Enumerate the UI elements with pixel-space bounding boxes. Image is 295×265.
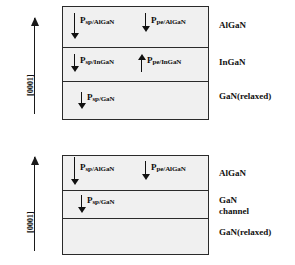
arrow-down-icon (141, 13, 150, 32)
layer-gan-relaxed: Psp/GaN (63, 81, 208, 119)
axis-arrowhead-up-icon (31, 156, 39, 165)
polarization-pe-ingan: Ppe/InGaN (137, 54, 181, 72)
axis-shaft (34, 157, 35, 251)
arrow-down-icon (77, 92, 86, 109)
polarization-label: Ppe/AlGaN (151, 163, 186, 173)
polarization-label: Psp/AlGaN (80, 16, 114, 26)
material-label-ingan: InGaN (219, 57, 246, 68)
layer-stack-bottom: Psp/AlGaN Ppe/AlGaN Psp/GaN (62, 155, 209, 255)
polarization-pe-algan: Ppe/AlGaN (141, 13, 186, 32)
material-label-algan: AlGaN (219, 20, 246, 31)
layer-ingan: Psp/InGaN Ppe/InGaN (63, 47, 208, 81)
material-label-line1: GaN (219, 195, 249, 206)
material-label-gan-relaxed: GaN(relaxed) (219, 227, 271, 238)
polarization-subscript: pe/AlGaN (157, 165, 186, 173)
polarization-label: Ppe/InGaN (147, 56, 181, 66)
polarization-sp-ingan: Psp/InGaN (70, 54, 114, 72)
polarization-subscript: sp/InGaN (86, 58, 114, 66)
layer-stack-top: Psp/AlGaN Ppe/AlGaN Psp/InGaN (62, 6, 209, 120)
material-label-algan: AlGaN (219, 168, 246, 179)
polarization-label: Psp/InGaN (80, 56, 114, 66)
polarization-sp-algan: Psp/AlGaN (70, 13, 114, 39)
polarization-subscript: sp/AlGaN (86, 165, 115, 173)
polarization-subscript: sp/AlGaN (86, 18, 115, 26)
axis-shaft (34, 18, 35, 114)
arrow-down-icon (77, 195, 86, 213)
polarization-subscript: sp/GaN (93, 95, 115, 103)
polarization-subscript: pe/InGaN (153, 58, 182, 66)
direction-label-0001: [0001] (25, 75, 35, 96)
diagram-algan-gan-channel: [0001] Psp/AlGaN Ppe/AlGaN (0, 133, 295, 265)
polarization-subscript: pe/AlGaN (157, 18, 186, 26)
polarization-sp-gan: Psp/GaN (77, 92, 114, 109)
polarization-pe-algan: Ppe/AlGaN (141, 161, 186, 180)
arrow-down-icon (141, 161, 150, 180)
polarization-label: Psp/AlGaN (80, 163, 114, 173)
layer-algan: Psp/AlGaN Ppe/AlGaN (63, 7, 208, 47)
axis-arrowhead-up-icon (31, 17, 39, 26)
arrow-down-icon (70, 157, 79, 185)
layer-algan: Psp/AlGaN Ppe/AlGaN (63, 156, 208, 190)
diagram-algan-ingan-gan: [0001] Psp/AlGaN Ppe/AlGaN (0, 0, 295, 133)
polarization-sp-gan: Psp/GaN (77, 195, 114, 213)
polarization-label: Psp/GaN (87, 93, 114, 103)
arrow-down-icon (70, 54, 79, 72)
polarization-subscript: sp/GaN (93, 198, 115, 206)
direction-label-0001: [0001] (25, 212, 35, 233)
material-label-line2: channel (219, 206, 249, 217)
layer-gan-channel: Psp/GaN (63, 190, 208, 218)
arrow-down-icon (70, 13, 79, 39)
polarization-label: Psp/GaN (87, 196, 114, 206)
layer-gan-relaxed (63, 218, 208, 254)
material-label-gan-relaxed: GaN(relaxed) (219, 91, 271, 102)
material-label-gan-channel: GaN channel (219, 195, 249, 216)
polarization-sp-algan: Psp/AlGaN (70, 157, 114, 185)
arrow-up-icon (137, 54, 146, 72)
polarization-label: Ppe/AlGaN (151, 16, 186, 26)
